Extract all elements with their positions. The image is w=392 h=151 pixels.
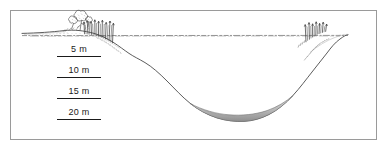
depth-tick-15m-rule [57, 98, 101, 99]
depth-tick-5m: 5 m [56, 44, 102, 57]
depth-tick-10m: 10 m [56, 65, 102, 78]
depth-tick-15m: 15 m [56, 86, 102, 99]
water-surface-line [22, 35, 348, 36]
right-shore-reeds [298, 22, 328, 48]
depth-tick-20m-rule [57, 119, 101, 120]
depth-tick-10m-rule [57, 77, 101, 78]
depth-tick-5m-rule [57, 56, 101, 57]
depth-tick-15m-label: 15 m [56, 86, 102, 98]
figure-root: 5 m 10 m 15 m 20 m [0, 0, 392, 151]
depth-tick-5m-label: 5 m [56, 44, 102, 56]
depth-tick-20m: 20 m [56, 107, 102, 120]
depth-tick-10m-label: 10 m [56, 65, 102, 77]
depth-tick-20m-label: 20 m [56, 107, 102, 119]
bottom-sediment-layer [190, 96, 293, 122]
